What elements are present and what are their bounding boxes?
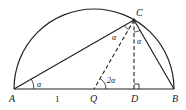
geometry-diagram: A B C Q D 1 α 2α α α xyxy=(0,0,186,110)
angle-label-A: α xyxy=(37,80,42,89)
angle-arc-Q xyxy=(100,79,106,89)
angle-arc-C-left xyxy=(125,26,129,30)
label-C: C xyxy=(136,7,143,18)
label-A: A xyxy=(8,93,16,104)
semicircle-arc xyxy=(14,9,174,89)
segment-AC xyxy=(14,20,134,89)
angle-label-C-right: α xyxy=(137,37,142,46)
angle-label-Q: 2α xyxy=(107,76,116,85)
label-AQ-length: 1 xyxy=(55,94,60,104)
label-Q: Q xyxy=(90,93,98,104)
right-angle-mark xyxy=(134,84,139,89)
point-C-dot xyxy=(133,19,136,22)
angle-label-C-left: α xyxy=(112,33,117,42)
label-D: D xyxy=(130,93,139,104)
label-B: B xyxy=(172,93,178,104)
segment-CB xyxy=(134,20,174,89)
angle-arc-A xyxy=(31,79,34,89)
angle-arc-C-right xyxy=(134,30,140,32)
